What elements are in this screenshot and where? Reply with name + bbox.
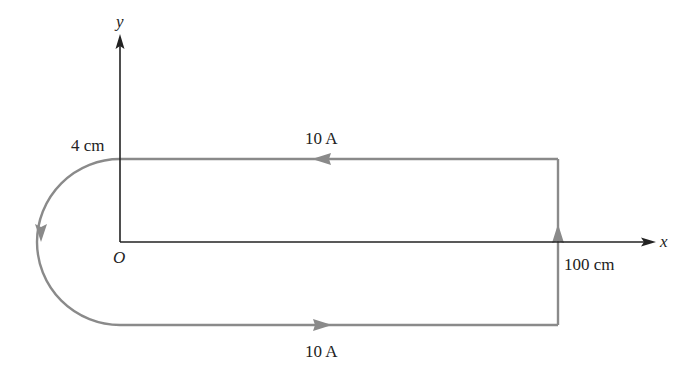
current-loop-diagram: y x O 4 cm 10 A 10 A 100 cm bbox=[0, 0, 699, 388]
length-label: 100 cm bbox=[564, 255, 615, 274]
top-current-label: 10 A bbox=[305, 129, 338, 148]
origin-label: O bbox=[113, 248, 125, 267]
arrow-left-icon bbox=[312, 153, 331, 165]
arrow-up-icon bbox=[552, 224, 564, 243]
axes bbox=[120, 42, 648, 242]
radius-label: 4 cm bbox=[71, 136, 105, 155]
semicircle-wire bbox=[37, 159, 120, 325]
arrow-right-icon bbox=[313, 319, 332, 331]
y-axis-label: y bbox=[114, 12, 124, 31]
bottom-current-label: 10 A bbox=[305, 342, 338, 361]
x-axis-label: x bbox=[659, 232, 668, 251]
